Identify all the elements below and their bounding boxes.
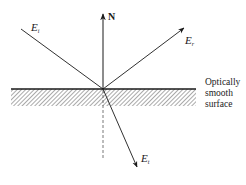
incident-label: Ei (30, 21, 40, 34)
transmitted-label: Et (140, 152, 150, 165)
medium-hatch (11, 89, 196, 106)
normal-label: N (108, 11, 116, 22)
surface-label-line1: Optically (205, 77, 241, 87)
reflected-ray (103, 28, 184, 89)
incident-ray (21, 29, 103, 89)
surface-label-line2: smooth (205, 88, 233, 98)
surface-label-line3: surface (205, 99, 232, 109)
optics-diagram: N Ei Er Et Optically smooth surface (0, 0, 246, 185)
reflected-label: Er (184, 34, 195, 47)
